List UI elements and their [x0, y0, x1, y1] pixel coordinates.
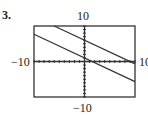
- axes: [34, 26, 135, 97]
- graph-window: [0, 0, 148, 116]
- upper-line: [54, 26, 135, 64]
